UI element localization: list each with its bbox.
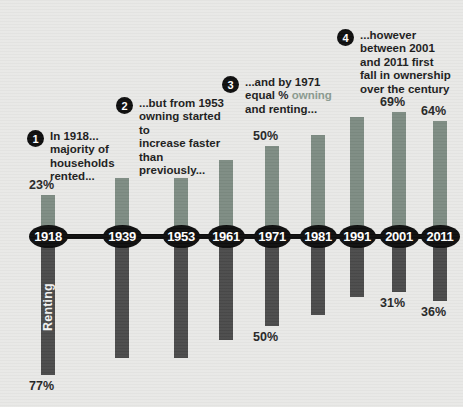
value-label-owning-2011: 64% — [421, 104, 446, 118]
year-pill-1953[interactable]: 1953 — [163, 225, 200, 248]
bar-segment-renting — [265, 236, 279, 326]
renting-inline-label: Renting — [41, 283, 55, 331]
value-label-renting-1971: 50% — [253, 330, 278, 344]
year-pill-1981[interactable]: 1981 — [300, 225, 337, 248]
annotation-1-text: In 1918... majority of households rented… — [50, 130, 122, 184]
annotation-1-badge: 1 — [27, 130, 44, 147]
annotation-2-badge: 2 — [116, 97, 133, 114]
bar-column — [174, 178, 188, 358]
annotation-2-text: ...but from 1953 owning started to incre… — [139, 97, 231, 177]
bar-column — [350, 117, 364, 297]
bar-segment-renting — [311, 236, 325, 315]
bar-segment-owning — [392, 112, 406, 236]
bar-column — [392, 112, 406, 292]
year-pill-1961[interactable]: 1961 — [208, 225, 245, 248]
year-pill-2011[interactable]: 2011 — [421, 225, 460, 248]
annotation-3-highlight: owning — [292, 89, 332, 101]
bar-segment-renting — [219, 236, 233, 340]
annotation-4: 4 ...however between 2001 and 2011 first… — [337, 29, 455, 96]
annotation-4-badge: 4 — [337, 29, 354, 46]
annotation-4-text: ...however between 2001 and 2011 first f… — [360, 29, 455, 96]
bar-segment-owning — [350, 117, 364, 236]
bar-column — [115, 178, 129, 358]
annotation-1: 1 In 1918... majority of households rent… — [27, 130, 122, 184]
infographic-chart: Renting 19181939195319611971198119912001… — [0, 0, 463, 407]
annotation-3-post: and renting... — [245, 103, 317, 115]
year-pill-1918[interactable]: 1918 — [29, 225, 68, 248]
value-label-owning-2001: 69% — [380, 95, 405, 109]
year-pill-1939[interactable]: 1939 — [103, 225, 142, 248]
bar-column — [433, 121, 447, 301]
value-label-owning-1971: 50% — [253, 129, 278, 143]
value-label-renting-1918: 77% — [29, 379, 54, 393]
annotation-3: 3 ...and by 1971 equal % owning and rent… — [222, 76, 332, 116]
value-label-renting-2011: 36% — [421, 305, 446, 319]
chart-plot-area: Renting 19181939195319611971198119912001… — [0, 0, 463, 388]
year-pill-1971[interactable]: 1971 — [254, 225, 291, 248]
year-pill-2001[interactable]: 2001 — [380, 225, 419, 248]
bar-column — [219, 160, 233, 340]
value-label-renting-2001: 31% — [380, 296, 405, 310]
bar-segment-owning — [265, 146, 279, 236]
bar-segment-renting — [115, 236, 129, 358]
year-pill-1991[interactable]: 1991 — [339, 225, 376, 248]
bar-segment-owning — [433, 121, 447, 236]
annotation-3-badge: 3 — [222, 76, 239, 93]
annotation-2: 2 ...but from 1953 owning started to inc… — [116, 97, 231, 177]
bar-segment-renting — [174, 236, 188, 358]
bar-segment-owning — [311, 135, 325, 236]
bar-column: Renting — [41, 195, 55, 375]
annotation-3-text: ...and by 1971 equal % owning and rentin… — [245, 76, 332, 116]
